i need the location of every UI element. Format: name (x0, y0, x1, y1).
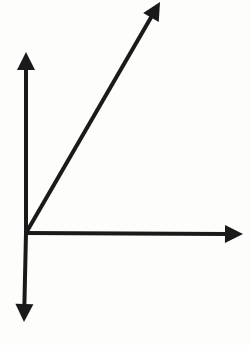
diagonal-ray (26, 2, 160, 233)
arrowhead-icon (15, 304, 33, 322)
vertical-up-ray (17, 52, 35, 233)
horizontal-ray (26, 225, 243, 243)
arrowhead-icon (17, 52, 35, 70)
horizontal-ray-line (26, 233, 227, 234)
diagonal-ray-line (26, 16, 152, 233)
arrowhead-icon (225, 225, 243, 243)
vertex-point (24, 231, 28, 235)
vertical-down-ray (15, 233, 33, 322)
angle-rays-diagram (0, 0, 250, 345)
vertical-down-ray-line (24, 233, 26, 306)
